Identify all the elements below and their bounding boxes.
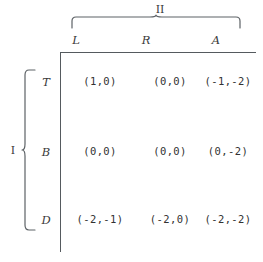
matrix-left-rule [60,52,61,252]
row-header-d: D [38,213,54,227]
payoff-cell: (-2,-1) [62,213,138,225]
payoff-matrix-figure: II I L R A T B D (1,0) (0,0) (-1,-2) (0,… [0,0,263,262]
payoff-cell: (0,0) [62,145,138,157]
row-header-b: B [38,145,54,159]
row-header-t: T [38,75,54,89]
column-header-l: L [46,33,106,47]
payoff-cell: (1,0) [62,75,138,87]
payoff-cell: (-2,-2) [190,213,263,225]
payoff-cell: (-1,-2) [190,75,263,87]
row-player-label: I [6,144,20,157]
row-group-brace [22,68,36,232]
column-group-brace [70,15,242,29]
payoff-cell: (0,-2) [190,145,263,157]
column-header-a: A [186,33,246,47]
matrix-top-rule [60,52,256,53]
column-header-r: R [116,33,176,47]
